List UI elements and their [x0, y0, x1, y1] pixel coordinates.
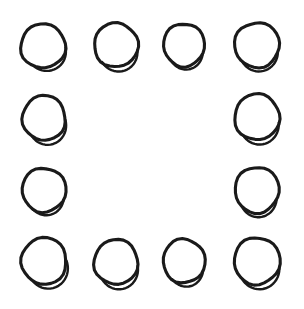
drawing-canvas [0, 0, 304, 309]
circles-sketch [0, 0, 304, 309]
canvas-background [0, 0, 304, 309]
